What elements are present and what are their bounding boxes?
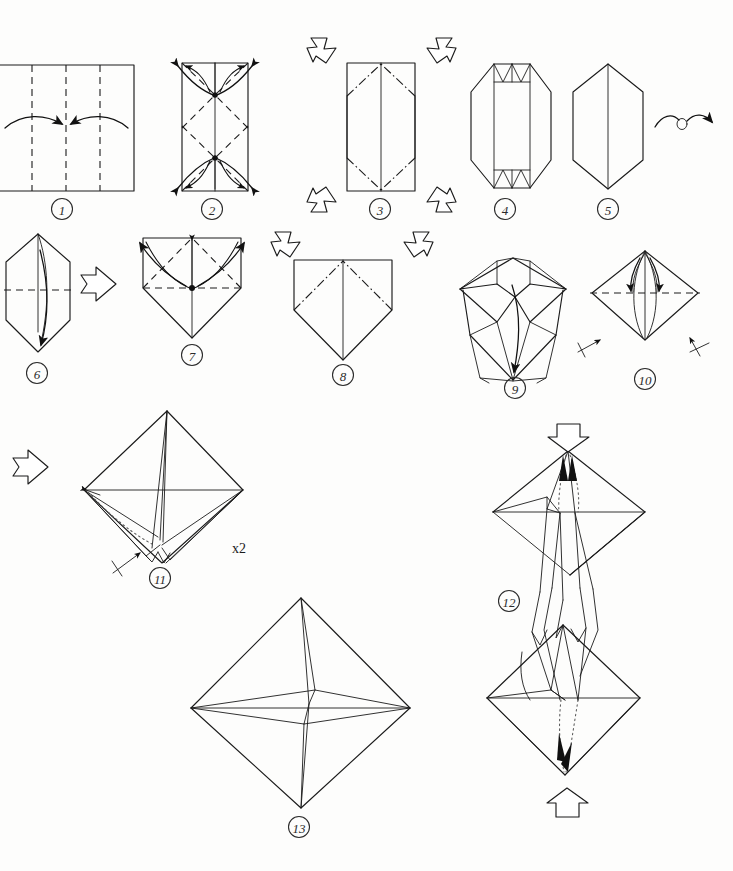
step-7-label: 7 xyxy=(189,349,196,364)
origami-diagram-canvas: 1 2 xyxy=(0,0,733,871)
step-8-figure xyxy=(294,260,392,360)
step-5-number: 5 xyxy=(598,199,619,220)
step-10-repeat-symbol-right xyxy=(690,338,709,356)
step-9-figure xyxy=(460,258,566,383)
step-4-label: 4 xyxy=(502,203,509,218)
step-11-label: 11 xyxy=(154,572,166,587)
step-1-label: 1 xyxy=(59,203,66,218)
step-9-label: 9 xyxy=(512,382,519,397)
step-12-label: 12 xyxy=(503,595,517,610)
step-12-push-arrow-top xyxy=(548,424,589,452)
step-13-figure xyxy=(191,598,410,808)
step-3-label: 3 xyxy=(376,203,384,218)
step-6-label: 6 xyxy=(34,367,41,382)
step-4-number: 4 xyxy=(495,199,516,220)
step-5-turnover-arrow xyxy=(655,115,712,129)
origami-diagram-sheet: 1 2 xyxy=(0,0,733,871)
step-4-figure xyxy=(471,64,551,188)
step-11-next-arrow xyxy=(13,450,48,484)
step-3-push-arrow-bottomleft xyxy=(307,187,336,212)
step-11-repeat-symbol xyxy=(112,553,140,576)
step-11-number: 11 xyxy=(150,568,171,589)
step-5-figure xyxy=(573,64,643,189)
step-3-figure xyxy=(347,63,415,191)
step-1-number: 1 xyxy=(52,199,73,220)
step-10-label: 10 xyxy=(639,373,653,388)
step-11-repeat-count: x2 xyxy=(232,541,246,556)
step-7-figure xyxy=(140,238,244,338)
step-12-number: 12 xyxy=(499,591,520,612)
step-5-label: 5 xyxy=(605,203,612,218)
step-12-figure-upper xyxy=(493,451,645,600)
step-2-label: 2 xyxy=(209,203,216,218)
step-6-number: 6 xyxy=(27,363,48,384)
step-8-push-arrow-right xyxy=(404,232,433,257)
step-10-repeat-symbol-left xyxy=(578,340,600,357)
step-12-push-arrow-bottom xyxy=(547,788,588,817)
step-9-number: 9 xyxy=(505,378,526,399)
step-3-push-arrow-bottomright xyxy=(427,187,456,212)
step-6-next-arrow xyxy=(81,267,116,301)
step-8-push-arrow-left xyxy=(271,232,300,257)
step-3-number: 3 xyxy=(370,199,391,220)
step-6-figure xyxy=(4,234,72,352)
step-8-number: 8 xyxy=(333,365,354,386)
step-7-number: 7 xyxy=(182,345,203,366)
step-2-number: 2 xyxy=(202,199,223,220)
step-1-figure xyxy=(0,65,134,191)
step-10-figure xyxy=(590,251,700,340)
step-3-push-arrow-topright xyxy=(427,38,456,63)
step-2-figure xyxy=(178,63,252,191)
step-13-label: 13 xyxy=(293,821,307,836)
step-10-number: 10 xyxy=(635,369,656,390)
step-11-figure xyxy=(84,411,243,563)
step-13-number: 13 xyxy=(289,817,310,838)
step-12-figure-lower xyxy=(487,588,640,775)
step-3-push-arrow-topleft xyxy=(307,38,336,63)
step-8-label: 8 xyxy=(340,369,347,384)
